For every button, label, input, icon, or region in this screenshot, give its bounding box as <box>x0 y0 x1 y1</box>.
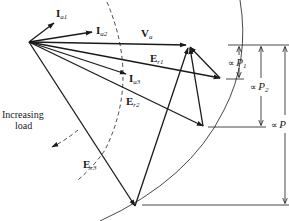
label-Ia1: Ia1 <box>56 7 67 21</box>
phasor-Ia2 <box>29 32 92 42</box>
label-Va: Va <box>141 27 153 41</box>
phasor-group <box>29 23 220 206</box>
phasor-Er2 <box>29 42 203 126</box>
label-Ia2: Ia2 <box>96 24 108 38</box>
phasor-Va <box>29 42 186 45</box>
label-P: ∝ P <box>271 118 286 130</box>
increasing-load-arrow <box>52 130 78 147</box>
label-P2: ∝ P2 <box>250 80 269 94</box>
label-P1: ∝ P1 <box>228 56 246 70</box>
label-Er3: Er3 <box>83 158 97 172</box>
drop-Er3 <box>135 48 188 206</box>
phasor-diagram: Ia1 Ia2 Va Er1 Ia3 Er2 Er3 Increasing lo… <box>0 0 289 221</box>
label-Er1: Er1 <box>150 52 164 66</box>
increasing-load-label-2: load <box>15 120 32 131</box>
increasing-load-label-1: Increasing <box>2 109 44 120</box>
label-Ia3: Ia3 <box>129 72 141 86</box>
phasor-Er3 <box>29 42 135 206</box>
drop-Er2 <box>190 48 203 126</box>
label-Er2: Er2 <box>126 95 140 109</box>
